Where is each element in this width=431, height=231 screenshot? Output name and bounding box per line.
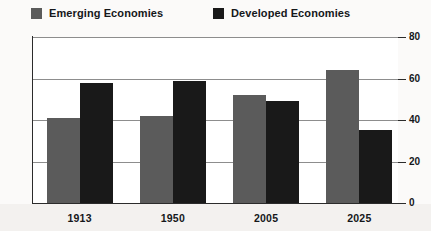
y-tick-20 bbox=[398, 162, 406, 163]
legend-item-developed-economies: Developed Economies bbox=[213, 0, 350, 26]
y-axis-line bbox=[32, 36, 33, 204]
legend-label-emerging-economies: Emerging Economies bbox=[49, 8, 163, 19]
legend-item-emerging-economies: Emerging Economies bbox=[31, 0, 163, 26]
gridline-80 bbox=[33, 37, 406, 38]
x-axis-label-2025: 2025 bbox=[313, 208, 406, 226]
y-tick-label-60: 60 bbox=[409, 74, 420, 84]
x-axis-label-text: 2025 bbox=[347, 212, 371, 224]
x-axis-label-1950: 1950 bbox=[126, 208, 219, 226]
y-tick-label-0: 0 bbox=[409, 198, 415, 208]
gridline-60 bbox=[33, 79, 406, 80]
x-axis-label-text: 1913 bbox=[68, 212, 92, 224]
gridline-40 bbox=[33, 120, 406, 121]
x-axis-label-2005: 2005 bbox=[220, 208, 313, 226]
legend-swatch-emerging-economies bbox=[31, 8, 42, 19]
legend-label-developed-economies: Developed Economies bbox=[231, 8, 350, 19]
gridline-20 bbox=[33, 162, 406, 163]
y-tick-40 bbox=[398, 120, 406, 121]
y-tick-label-80: 80 bbox=[409, 32, 420, 42]
x-axis-label-text: 1950 bbox=[161, 212, 185, 224]
bar-chart: Emerging Economies Developed Economies 0… bbox=[0, 0, 431, 231]
y-tick-80 bbox=[398, 37, 406, 38]
y-tick-label-20: 20 bbox=[409, 157, 420, 167]
x-axis-label-text: 2005 bbox=[254, 212, 278, 224]
legend-swatch-developed-economies bbox=[213, 8, 224, 19]
chart-legend: Emerging Economies Developed Economies bbox=[0, 0, 431, 26]
x-axis-line bbox=[32, 203, 406, 204]
y-tick-60 bbox=[398, 79, 406, 80]
x-axis-label-1913: 1913 bbox=[33, 208, 126, 226]
y-tick-label-40: 40 bbox=[409, 115, 420, 125]
